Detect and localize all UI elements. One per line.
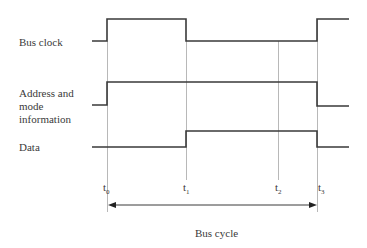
- bus-cycle-label: Bus cycle: [195, 227, 238, 240]
- time-guides: [108, 19, 318, 212]
- timing-diagram: [0, 0, 367, 248]
- time-label-t3: t3: [318, 181, 325, 196]
- address-waveform: [92, 82, 349, 106]
- bus-cycle-arrow: [108, 202, 317, 208]
- time-label-t1: t1: [183, 181, 190, 196]
- time-label-t2: t2: [275, 181, 282, 196]
- bus-clock-waveform: [92, 19, 349, 41]
- data-waveform: [92, 131, 349, 147]
- time-label-t0: t0: [103, 181, 110, 196]
